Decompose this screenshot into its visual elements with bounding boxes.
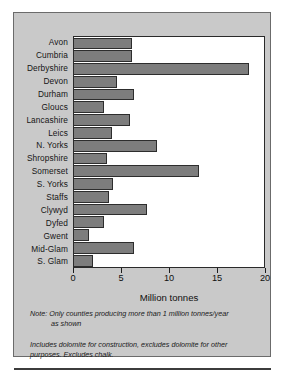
note-line-2: as shown <box>30 319 258 329</box>
category-label: Devon <box>14 75 72 88</box>
bar <box>74 255 93 267</box>
category-label: Gloucs <box>14 100 72 113</box>
bar-row <box>74 126 264 139</box>
category-label: Dyfed <box>14 216 72 229</box>
note-primary: Note: Only counties producing more than … <box>30 309 258 330</box>
category-axis-labels: AvonCumbriaDerbyshireDevonDurhamGloucsLa… <box>14 36 72 268</box>
bar <box>74 101 104 113</box>
category-label: N. Yorks <box>14 139 72 152</box>
chart-notes: Note: Only counties producing more than … <box>30 309 258 361</box>
category-label: Avon <box>14 36 72 49</box>
bar-row <box>74 75 264 88</box>
note-line-1: Only counties producing more than 1 mill… <box>49 309 228 318</box>
category-label: S. Yorks <box>14 178 72 191</box>
bar <box>74 229 89 241</box>
x-axis: 05101520 <box>73 268 265 294</box>
bar-row <box>74 203 264 216</box>
x-tick-label: 20 <box>260 273 270 283</box>
category-label: Leics <box>14 126 72 139</box>
plot-canvas <box>73 36 265 268</box>
bar <box>74 63 249 75</box>
bar <box>74 114 130 126</box>
bar-row <box>74 101 264 114</box>
bar <box>74 50 132 62</box>
bar-row <box>74 229 264 242</box>
bar-row <box>74 88 264 101</box>
bar-row <box>74 165 264 178</box>
bar-row <box>74 114 264 127</box>
bar-row <box>74 50 264 63</box>
bar <box>74 165 199 177</box>
bar-series <box>74 37 264 267</box>
bar-row <box>74 139 264 152</box>
bar-row <box>74 63 264 76</box>
x-axis-title: Million tonnes <box>73 292 265 303</box>
note-secondary: Includes dolomite for construction, excl… <box>30 340 258 361</box>
category-label: Shropshire <box>14 152 72 165</box>
category-label: Lancashire <box>14 113 72 126</box>
category-label: Derbyshire <box>14 62 72 75</box>
bar-row <box>74 190 264 203</box>
bar <box>74 140 157 152</box>
bar-row <box>74 242 264 255</box>
category-label: Durham <box>14 88 72 101</box>
bar <box>74 216 104 228</box>
category-label: Cumbria <box>14 49 72 62</box>
bar <box>74 242 134 254</box>
x-tick-label: 0 <box>70 273 75 283</box>
bar-row <box>74 178 264 191</box>
category-label: Gwent <box>14 229 72 242</box>
category-label: Somerset <box>14 165 72 178</box>
category-label: Mid-Glam <box>14 242 72 255</box>
bar <box>74 89 134 101</box>
bar-row <box>74 152 264 165</box>
x-tick-label: 15 <box>212 273 222 283</box>
chart-panel: AvonCumbriaDerbyshireDevonDurhamGloucsLa… <box>13 12 271 357</box>
category-label: Clywyd <box>14 204 72 217</box>
category-label: S. Glam <box>14 255 72 268</box>
bar <box>74 76 117 88</box>
bar <box>74 178 113 190</box>
bottom-divider <box>14 368 271 370</box>
bar-row <box>74 37 264 50</box>
bar <box>74 127 112 139</box>
bar <box>74 204 147 216</box>
x-tick-label: 5 <box>118 273 123 283</box>
note-label: Note: <box>30 309 47 318</box>
bar <box>74 191 109 203</box>
category-label: Staffs <box>14 191 72 204</box>
bar-row <box>74 216 264 229</box>
plot-area: AvonCumbriaDerbyshireDevonDurhamGloucsLa… <box>14 22 272 272</box>
bar-row <box>74 254 264 267</box>
x-tick-label: 10 <box>164 273 174 283</box>
figure: AvonCumbriaDerbyshireDevonDurhamGloucsLa… <box>0 0 285 380</box>
bar <box>74 153 107 165</box>
bar <box>74 38 132 50</box>
